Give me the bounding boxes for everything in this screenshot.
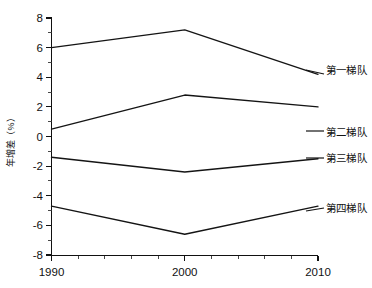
y-axis-title: 年增差（%） — [5, 113, 16, 166]
series-line-3 — [52, 157, 319, 172]
x-tick-labels: 1990 2000 2010 — [39, 266, 331, 278]
y-tick-labels: 8 6 4 2 0 -2 -4 -6 -8 — [33, 12, 44, 261]
x-tick-label: 2000 — [172, 266, 198, 278]
y-tick-label: 0 — [37, 131, 43, 143]
legend-label-tier-1[interactable]: 第一梯队 — [326, 62, 367, 77]
x-major-ticks — [52, 256, 319, 262]
y-tick-label: -8 — [33, 249, 43, 261]
legend-label-tier-4[interactable]: 第四梯队 — [326, 200, 367, 215]
legend-label-tier-3[interactable]: 第三梯队 — [326, 150, 367, 165]
series-line-1 — [52, 30, 319, 74]
y-tick-label: -6 — [33, 219, 43, 231]
y-tick-label: 2 — [37, 101, 43, 113]
y-tick-label: 6 — [37, 42, 43, 54]
series-line-4 — [52, 206, 319, 234]
legend-label-tier-2[interactable]: 第二梯队 — [326, 124, 367, 139]
y-tick-label: -4 — [33, 190, 44, 202]
y-tick-label: 4 — [37, 71, 44, 83]
y-tick-label: 8 — [37, 12, 43, 24]
y-tick-label: -2 — [33, 160, 43, 172]
x-tick-label: 2010 — [305, 266, 331, 278]
y-major-ticks — [46, 18, 52, 255]
chart-canvas: 8 6 4 2 0 -2 -4 -6 -8 1990 2000 2010 年增差… — [0, 0, 372, 288]
x-tick-label: 1990 — [39, 266, 65, 278]
line-chart: 8 6 4 2 0 -2 -4 -6 -8 1990 2000 2010 年增差… — [0, 0, 372, 288]
series-line-2 — [52, 95, 319, 129]
legend-leader-lines — [306, 70, 324, 211]
